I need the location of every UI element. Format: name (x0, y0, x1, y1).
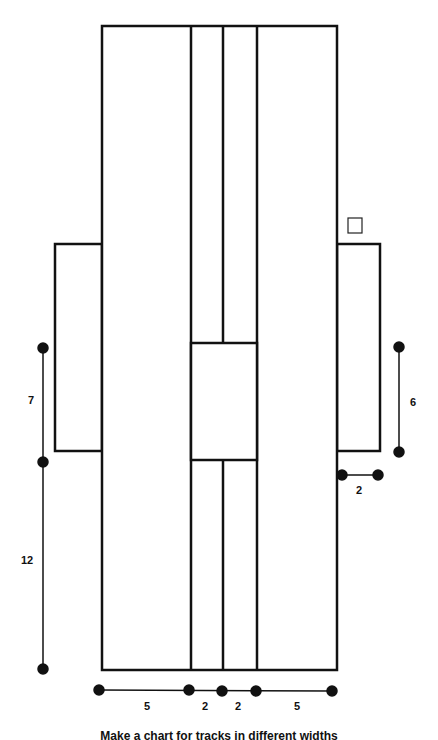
dim-dot (217, 686, 227, 696)
dim-dot (394, 342, 404, 352)
dim-dot (38, 457, 48, 467)
dim-dot (251, 686, 261, 696)
figure-caption: Make a chart for tracks in different wid… (0, 729, 438, 740)
dim-label-right-horizontal: 2 (356, 484, 362, 496)
center-box (191, 343, 257, 460)
dim-dot (394, 447, 404, 457)
dim-dot (94, 685, 104, 695)
dim-label-bottom-2: 2 (202, 700, 208, 712)
diagram-canvas: 7 12 6 2 5 2 2 5 (0, 0, 438, 740)
right-wing (337, 244, 380, 451)
dim-dot (38, 664, 48, 674)
dim-label-bottom-3: 2 (235, 700, 241, 712)
dim-dot (184, 685, 194, 695)
dim-dot (337, 470, 347, 480)
dim-label-right-vertical: 6 (410, 396, 416, 408)
dim-dot (38, 343, 48, 353)
dim-dot (327, 686, 337, 696)
dim-label-left-lower: 12 (21, 554, 33, 566)
dim-label-bottom-1: 5 (144, 700, 150, 712)
dim-label-bottom-4: 5 (294, 700, 300, 712)
left-wing (55, 244, 102, 451)
dim-label-left-upper: 7 (28, 394, 34, 406)
dim-dot (373, 470, 383, 480)
small-square (348, 218, 362, 233)
